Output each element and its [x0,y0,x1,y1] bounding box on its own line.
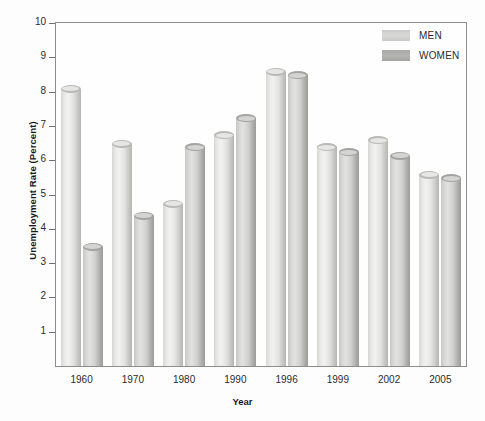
bar-cap-inner [113,141,130,146]
legend-label-men: MEN [419,30,442,41]
bar-women-1960[interactable] [83,243,103,366]
cylinder-bar-icon [134,212,154,366]
bar-cap [317,143,337,151]
bar-men-1980[interactable] [163,200,183,366]
legend-label-women: WOMEN [419,50,459,61]
bar-group [214,23,256,366]
bar-group [266,23,308,366]
bar-body [339,152,359,366]
y-tick-label: 8 [40,85,46,96]
bar-group [112,23,154,366]
bar-women-2002[interactable] [390,152,410,366]
y-tick-label: 1 [40,325,46,336]
legend-swatch-men-icon [382,30,410,41]
bar-group [317,23,359,366]
bar-cap [288,71,308,79]
bar-cap-inner [62,86,79,91]
bar-cap [266,68,286,76]
bar-body [288,75,308,366]
bar-cap-inner [187,145,204,150]
bar-cap [163,200,183,208]
y-tick-label: 10 [35,16,46,27]
bar-body [266,72,286,366]
bar-women-1999[interactable] [339,148,359,366]
bar-cap [419,171,439,179]
cylinder-bar-icon [112,140,132,366]
bar-cap-inner [84,244,101,249]
bar-group [163,23,205,366]
cylinder-bar-icon [419,171,439,367]
y-tick-label: 4 [40,222,46,233]
bar-group [61,23,103,366]
cylinder-bar-icon [390,152,410,366]
bar-cap-inner [370,138,387,143]
y-tick-label: 7 [40,119,46,130]
bar-men-2002[interactable] [368,136,388,366]
x-axis-title: Year [0,396,485,407]
bar-cap [390,152,410,160]
bar-men-1990[interactable] [214,131,234,366]
bar-men-1996[interactable] [266,68,286,366]
bar-body [163,204,183,366]
bar-cap [134,212,154,220]
cylinder-bar-icon [214,131,234,366]
cylinder-bar-icon [368,136,388,366]
bar-cap-inner [289,73,306,78]
bar-cap-inner [216,133,233,138]
legend-swatch-women-icon [382,50,410,61]
bar-group [368,23,410,366]
bar-body [83,247,103,366]
cylinder-bar-icon [441,174,461,366]
bar-body [214,135,234,366]
y-tick-label: 3 [40,256,46,267]
cylinder-bar-icon [163,200,183,366]
bar-cap-inner [318,145,335,150]
bar-women-1990[interactable] [236,114,256,366]
cylinder-bar-icon [61,85,81,366]
bar-body [134,216,154,366]
bar-cap-inner [443,176,460,181]
bar-cap-inner [135,213,152,218]
cylinder-bar-icon [266,68,286,366]
bar-body [317,147,337,366]
bar-women-1996[interactable] [288,71,308,366]
bar-body [419,175,439,367]
y-tick-label: 6 [40,153,46,164]
bar-body [236,118,256,366]
bar-cap [83,243,103,251]
bar-cap-inner [267,69,284,74]
bar-body [61,89,81,366]
cylinder-bar-icon [83,243,103,366]
bar-body [112,144,132,366]
bar-men-1970[interactable] [112,140,132,366]
chart-legend: MEN WOMEN [382,26,459,66]
bar-men-2005[interactable] [419,171,439,367]
bar-body [390,156,410,366]
bar-cap-inner [392,153,409,158]
bar-women-1980[interactable] [185,143,205,366]
bar-cap-inner [340,150,357,155]
bar-cap [61,85,81,93]
x-tick-label-2005: 2005 [410,374,470,385]
bar-cap-inner [165,201,182,206]
bar-cap-inner [421,172,438,177]
bar-women-2005[interactable] [441,174,461,366]
cylinder-bar-icon [236,114,256,366]
bar-men-1960[interactable] [61,85,81,366]
bar-women-1970[interactable] [134,212,154,366]
y-axis-title: Unemployment Rate (Percent) [27,71,38,311]
bar-cap [112,140,132,148]
legend-item-women: WOMEN [382,46,459,64]
legend-item-men: MEN [382,26,459,44]
y-tick-label: 5 [40,188,46,199]
bar-body [368,140,388,366]
y-tick-label: 9 [40,50,46,61]
y-tick-label: 2 [40,290,46,301]
cylinder-bar-icon [317,143,337,366]
cylinder-bar-icon [185,143,205,366]
bar-men-1999[interactable] [317,143,337,366]
plot-area [56,23,466,366]
unemployment-rate-bar-chart: Unemployment Rate (Percent) 12345678910 … [0,0,485,421]
bar-body [441,178,461,366]
cylinder-bar-icon [339,148,359,366]
